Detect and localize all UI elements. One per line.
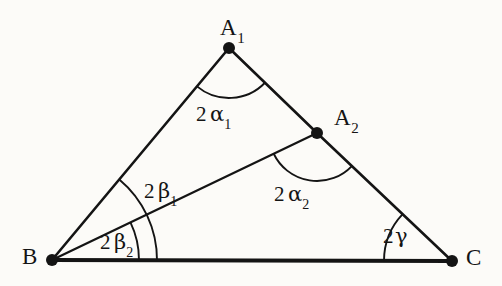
angle-subscript: 2 [302,197,309,212]
vertex-subscript: 1 [237,30,245,46]
arc-A1 [197,83,265,98]
vertex-point-a2 [311,127,323,139]
angle-greek-symbol: α [207,102,224,126]
angle-greek-symbol: α [285,182,302,206]
angle-label-2-alpha-1: 2α1 [196,104,231,129]
angle-greek-symbol: β [111,230,126,254]
angle-label-2-beta-1: 2β1 [144,181,177,206]
angle-coefficient: 2 [196,102,207,126]
angle-greek-symbol: γ [394,224,408,248]
angle-coefficient: 2 [100,230,111,254]
angle-label-2-beta-2: 2β2 [100,232,133,257]
angle-subscript: 1 [224,117,231,132]
angle-subscript: 2 [126,245,133,260]
vertex-label-a2: A2 [334,106,358,134]
angle-arcs-group [119,83,402,261]
segment-a1-a2 [229,48,317,133]
vertex-letter: A [220,15,237,40]
figure-canvas [0,0,502,286]
vertex-point-b [46,254,58,266]
angle-coefficient: 2 [383,224,394,248]
geometry-figure: A1 A2 B C 2α1 2α2 2β1 2β2 2γ [0,0,502,286]
angle-label-2-alpha-2: 2α2 [274,184,309,209]
angle-label-2-gamma: 2γ [383,226,408,247]
angle-coefficient: 2 [274,182,285,206]
segment-b-a1 [52,48,229,260]
vertex-letter: B [22,244,37,269]
angle-subscript: 1 [170,194,177,209]
vertex-label-b: B [22,245,37,268]
vertex-label-a1: A1 [220,16,244,44]
vertex-label-c: C [466,246,481,269]
vertex-letter: C [466,245,481,270]
arc-A2 [274,154,352,181]
angle-coefficient: 2 [144,179,155,203]
segment-b-c [52,260,452,261]
angle-greek-symbol: β [155,179,170,203]
vertex-point-c [446,255,458,267]
vertex-point-a1 [223,42,235,54]
vertex-subscript: 2 [351,120,359,136]
vertex-letter: A [334,105,351,130]
